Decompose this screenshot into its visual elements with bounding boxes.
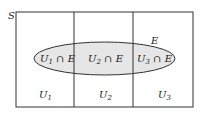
event-label: E <box>150 35 159 46</box>
sample-space-label: S <box>8 10 15 21</box>
partition-venn-diagram: S E U1 ∩ E U2 ∩ E U3 ∩ E U1 U2 U3 <box>0 0 200 114</box>
